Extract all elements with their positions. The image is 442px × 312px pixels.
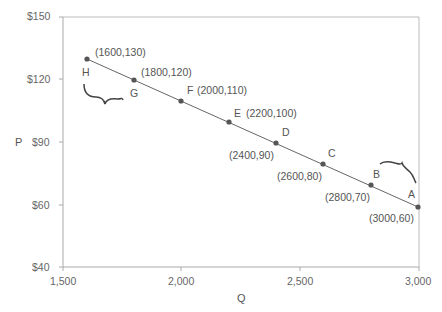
coord-label-d: (2400,90) xyxy=(229,149,274,161)
y-tick: $60 xyxy=(32,199,50,211)
x-axis-title: Q xyxy=(237,292,246,304)
coord-label-a: (3000,60) xyxy=(369,212,414,224)
coord-label-g: (1800,120) xyxy=(141,66,192,78)
x-tick: 2,500 xyxy=(287,275,313,287)
brace-left-annotation xyxy=(84,84,123,104)
coord-label-e: (2200,100) xyxy=(246,107,297,119)
x-tick: 1,500 xyxy=(50,275,76,287)
brace-right-annotation xyxy=(380,162,416,183)
point-label-d: D xyxy=(282,126,290,138)
coord-label-f: (2000,110) xyxy=(197,84,247,96)
y-tick: $120 xyxy=(27,73,50,85)
chart-canvas xyxy=(0,0,442,312)
coord-label-c: (2600,80) xyxy=(277,170,322,182)
point-label-g: G xyxy=(130,87,138,99)
coord-label-b: (2800,70) xyxy=(325,191,370,203)
point-label-f: F xyxy=(187,84,193,96)
x-tick: 3,000 xyxy=(405,275,431,287)
demand-line xyxy=(87,59,418,207)
x-tick: 2,000 xyxy=(168,275,194,287)
y-tick: $40 xyxy=(32,261,50,273)
point-label-c: C xyxy=(328,147,336,159)
point-label-e: E xyxy=(234,107,241,119)
point-label-h: H xyxy=(82,66,90,78)
y-tick: $150 xyxy=(27,10,50,22)
y-tick: $90 xyxy=(32,136,50,148)
y-axis-title: P xyxy=(15,136,22,148)
point-label-a: A xyxy=(408,188,415,200)
point-label-b: B xyxy=(373,168,380,180)
coord-label-h: (1600,130) xyxy=(95,46,146,58)
